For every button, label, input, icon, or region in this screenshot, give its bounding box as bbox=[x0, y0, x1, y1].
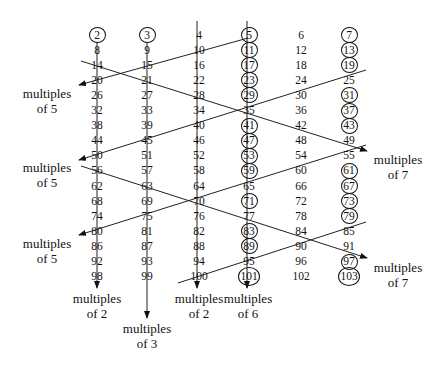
number: 90 bbox=[286, 240, 316, 253]
prime-circle bbox=[241, 223, 258, 239]
bottom-label-1: multiplesof 2 bbox=[57, 291, 137, 321]
number: 65 bbox=[234, 180, 264, 193]
label-line-1: multiples bbox=[57, 291, 137, 306]
prime-circle bbox=[341, 87, 358, 103]
bottom-label-4: multiplesof 6 bbox=[208, 291, 288, 321]
multiples-of-7-label: multiplesof 7 bbox=[358, 152, 438, 182]
number: 82 bbox=[184, 225, 214, 238]
prime-circle bbox=[341, 163, 358, 179]
number: 34 bbox=[184, 104, 214, 117]
number: 45 bbox=[132, 134, 162, 147]
number: 75 bbox=[132, 210, 162, 223]
number: 14 bbox=[82, 59, 112, 72]
multiples-of-5-label: multiplesof 5 bbox=[7, 86, 87, 116]
number: 57 bbox=[132, 164, 162, 177]
prime-circle bbox=[241, 42, 258, 58]
number: 63 bbox=[132, 180, 162, 193]
number: 94 bbox=[184, 255, 214, 268]
label-line-1: multiples bbox=[358, 152, 438, 167]
number: 95 bbox=[234, 255, 264, 268]
number: 77 bbox=[234, 210, 264, 223]
number: 36 bbox=[286, 104, 316, 117]
multiples-of-5-line-2 bbox=[79, 70, 366, 160]
prime-circle bbox=[241, 163, 258, 179]
label-line-2: of 6 bbox=[208, 306, 288, 321]
number: 98 bbox=[82, 270, 112, 283]
number: 91 bbox=[334, 240, 364, 253]
label-line-2: of 2 bbox=[57, 306, 137, 321]
number: 16 bbox=[184, 59, 214, 72]
prime-circle bbox=[341, 208, 358, 224]
number: 60 bbox=[286, 164, 316, 177]
number: 4 bbox=[184, 29, 214, 42]
prime-circle bbox=[341, 27, 358, 43]
number: 88 bbox=[184, 240, 214, 253]
prime-circle bbox=[241, 193, 258, 209]
number: 22 bbox=[184, 74, 214, 87]
number: 33 bbox=[132, 104, 162, 117]
label-line-1: multiples bbox=[7, 86, 87, 101]
prime-circle bbox=[341, 103, 358, 119]
multiples-of-5-label: multiplesof 5 bbox=[7, 160, 87, 190]
number: 18 bbox=[286, 59, 316, 72]
number: 78 bbox=[286, 210, 316, 223]
prime-circle bbox=[139, 27, 156, 43]
number: 9 bbox=[132, 44, 162, 57]
number: 48 bbox=[286, 134, 316, 147]
label-line-2: of 5 bbox=[7, 175, 87, 190]
number: 24 bbox=[286, 74, 316, 87]
prime-circle bbox=[238, 267, 260, 286]
multiples-of-7-line-1 bbox=[81, 61, 367, 151]
number: 66 bbox=[286, 180, 316, 193]
number: 54 bbox=[286, 149, 316, 162]
number: 25 bbox=[334, 74, 364, 87]
prime-circle bbox=[241, 118, 258, 134]
prime-circle bbox=[341, 178, 358, 194]
number: 30 bbox=[286, 89, 316, 102]
number: 68 bbox=[82, 195, 112, 208]
prime-circle bbox=[241, 72, 258, 88]
number: 69 bbox=[132, 195, 162, 208]
number: 8 bbox=[82, 44, 112, 57]
bottom-label-2: multiplesof 3 bbox=[107, 321, 187, 351]
prime-circle bbox=[241, 238, 258, 254]
prime-circle bbox=[241, 148, 258, 164]
number: 49 bbox=[334, 134, 364, 147]
number: 38 bbox=[82, 119, 112, 132]
number: 84 bbox=[286, 225, 316, 238]
number: 21 bbox=[132, 74, 162, 87]
number: 28 bbox=[184, 89, 214, 102]
label-line-1: multiples bbox=[107, 321, 187, 336]
number: 20 bbox=[82, 74, 112, 87]
prime-circle bbox=[241, 27, 258, 43]
number: 76 bbox=[184, 210, 214, 223]
label-line-2: of 7 bbox=[358, 275, 438, 290]
prime-circle bbox=[241, 133, 258, 149]
label-line-1: multiples bbox=[7, 160, 87, 175]
number: 51 bbox=[132, 149, 162, 162]
number: 87 bbox=[132, 240, 162, 253]
prime-circle bbox=[341, 118, 358, 134]
multiples-of-5-line-3 bbox=[79, 145, 366, 235]
number: 100 bbox=[184, 270, 214, 283]
number: 52 bbox=[184, 149, 214, 162]
multiples-of-7-label: multiplesof 7 bbox=[358, 260, 438, 290]
number: 96 bbox=[286, 255, 316, 268]
number: 72 bbox=[286, 195, 316, 208]
multiples-of-7-line-2 bbox=[81, 166, 367, 258]
label-line-1: multiples bbox=[358, 260, 438, 275]
prime-circle bbox=[241, 87, 258, 103]
number: 99 bbox=[132, 270, 162, 283]
number: 35 bbox=[234, 104, 264, 117]
number: 46 bbox=[184, 134, 214, 147]
number: 44 bbox=[82, 134, 112, 147]
label-line-2: of 5 bbox=[7, 101, 87, 116]
prime-circle bbox=[89, 27, 106, 43]
label-line-2: of 7 bbox=[358, 167, 438, 182]
number: 81 bbox=[132, 225, 162, 238]
number: 102 bbox=[286, 270, 316, 283]
number: 40 bbox=[184, 119, 214, 132]
label-line-1: multiples bbox=[208, 291, 288, 306]
number: 74 bbox=[82, 210, 112, 223]
number: 12 bbox=[286, 44, 316, 57]
